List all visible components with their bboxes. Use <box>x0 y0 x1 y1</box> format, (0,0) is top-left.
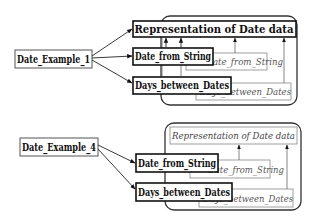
node-date-example-4[interactable]: Date_Example_4 <box>20 138 98 156</box>
node-representation-of-date-data[interactable]: Representation of Date data <box>170 127 297 144</box>
node-label: Days_between_Dates <box>138 186 230 200</box>
diagram-date-example-4: Representation of Date data Date_from_St… <box>20 123 301 210</box>
diagram-date-example-1: Date_from_String Days_between_Dates Repr… <box>15 16 297 105</box>
node-representation-of-date-data[interactable]: Representation of Date data <box>133 21 296 37</box>
node-label: Representation of Date data <box>171 130 295 141</box>
node-label: Date_Example_4 <box>22 141 96 155</box>
diagram-canvas: Date_from_String Days_between_Dates Repr… <box>0 0 315 220</box>
edge-source-to-from-string <box>98 145 135 163</box>
node-label: Date_Example_1 <box>17 53 90 67</box>
node-days-between-dates[interactable]: Days_between_Dates <box>136 183 232 201</box>
node-date-example-1[interactable]: Date_Example_1 <box>15 50 92 68</box>
node-date-from-string[interactable]: Date_from_String <box>133 48 213 65</box>
node-date-from-string[interactable]: Date_from_String <box>136 154 218 172</box>
node-days-between-dates[interactable]: Days_between_Dates <box>133 77 231 94</box>
edge-source-to-days-between <box>98 149 135 189</box>
node-label: Days_between_Dates <box>135 79 229 93</box>
node-label: Representation of Date data <box>135 23 294 35</box>
ghost-node-label: Date_from_String <box>205 56 283 68</box>
edge-source-to-repr <box>92 29 132 56</box>
edge-source-to-days-between <box>92 60 132 83</box>
node-label: Date_from_String <box>135 50 211 64</box>
edge-source-to-from-string <box>92 56 132 58</box>
node-label: Date_from_String <box>138 157 216 171</box>
